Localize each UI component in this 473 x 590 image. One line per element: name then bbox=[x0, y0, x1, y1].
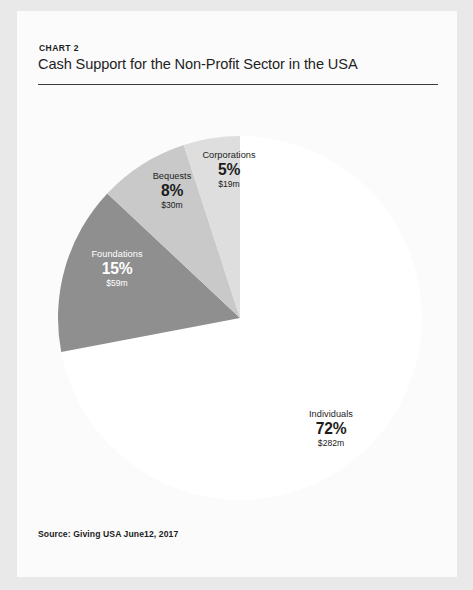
slice-amount-individuals: $282m bbox=[275, 439, 387, 449]
slice-percent-individuals: 72% bbox=[275, 420, 387, 438]
slice-name-corporations: Corporations bbox=[177, 150, 281, 160]
pie-chart-svg bbox=[17, 11, 457, 577]
pie-chart: Corporations 5% $19m Bequests 8% $30m Fo… bbox=[17, 11, 457, 577]
source-note: Source: Giving USA June12, 2017 bbox=[38, 529, 178, 539]
slice-name-foundations: Foundations bbox=[61, 249, 173, 259]
slice-label-bequests: Bequests 8% $30m bbox=[124, 171, 220, 211]
slice-name-bequests: Bequests bbox=[124, 171, 220, 181]
slice-label-individuals: Individuals 72% $282m bbox=[275, 409, 387, 449]
slice-percent-foundations: 15% bbox=[61, 260, 173, 278]
slice-label-foundations: Foundations 15% $59m bbox=[61, 249, 173, 289]
slice-amount-bequests: $30m bbox=[124, 201, 220, 211]
slice-amount-foundations: $59m bbox=[61, 279, 173, 289]
slice-name-individuals: Individuals bbox=[275, 409, 387, 419]
chart-page: CHART 2 Cash Support for the Non-Profit … bbox=[17, 11, 457, 577]
slice-percent-bequests: 8% bbox=[124, 182, 220, 200]
